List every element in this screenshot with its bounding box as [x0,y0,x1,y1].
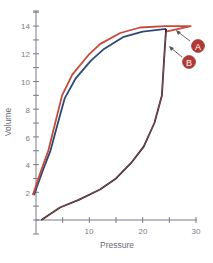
y-tick-label: 8 [26,106,31,115]
y-tick-label: 2 [26,189,31,198]
marker-a-label: A [195,42,201,52]
y-tick-label: 4 [26,161,31,170]
x-axis-title: Pressure [100,240,134,250]
y-tick-label: 12 [21,50,30,59]
y-tick-label: 14 [21,22,30,31]
marker-b-label: B [186,58,192,68]
lower-limb-line [41,29,166,220]
curve-a-line [33,26,191,195]
x-tick-label: 20 [139,227,148,236]
annotation-b: B [169,46,196,69]
lower-limb-red-line [41,32,166,220]
curve-b-line [34,29,166,195]
y-tick-label: 6 [26,134,31,143]
x-tick-label: 30 [192,227,201,236]
plot-area [33,26,191,220]
pressure-volume-chart: 2 4 6 8 10 12 14 10 20 30 Pressure Volum… [0,0,213,263]
arrow-a-icon [178,32,190,41]
y-tick-label: 10 [21,78,30,87]
x-axis: 10 20 30 [36,217,201,236]
x-tick-label: 10 [85,227,94,236]
annotation-a: A [176,30,205,53]
y-axis: 2 4 6 8 10 12 14 [21,11,39,234]
y-axis-title: Volume [3,108,13,137]
